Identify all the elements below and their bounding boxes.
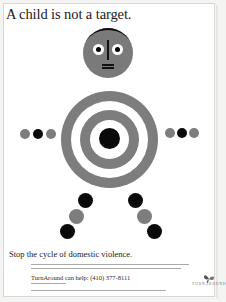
call-to-action: TurnAround can help: (410) 377-8111 [31, 274, 130, 281]
mouth-line-lower [102, 67, 114, 69]
right-leg-dot-bottom [147, 224, 162, 239]
left-eye-icon [93, 44, 104, 55]
right-arm-dot-middle [177, 128, 187, 138]
tagline: Stop the cycle of domestic violence. [9, 249, 132, 259]
figure-head [83, 28, 133, 78]
right-eye-icon [112, 44, 123, 55]
call-to-action-subline [31, 283, 66, 284]
right-arm-dot-outer [189, 128, 199, 138]
body-copy-line-1 [31, 264, 189, 265]
left-arm-dot-outer [20, 129, 30, 139]
logo-wordmark: TURNAROUND [192, 282, 226, 286]
nose-line [107, 40, 109, 60]
target-bullseye [99, 128, 120, 149]
mouth-line [102, 64, 114, 66]
poster-shadow [216, 5, 218, 298]
left-leg-dot-middle [69, 209, 84, 224]
body-copy-line-2 [31, 268, 181, 269]
left-leg-dot-top [78, 193, 93, 208]
left-arm-dot-middle [33, 129, 43, 139]
left-arm-dot-inner [46, 129, 56, 139]
right-leg-dot-middle [137, 209, 152, 224]
footer-credits-line [31, 290, 166, 291]
right-leg-dot-top [128, 193, 143, 208]
headline: A child is not a target. [6, 6, 131, 23]
left-leg-dot-bottom [60, 224, 75, 239]
right-arm-dot-inner [165, 128, 175, 138]
